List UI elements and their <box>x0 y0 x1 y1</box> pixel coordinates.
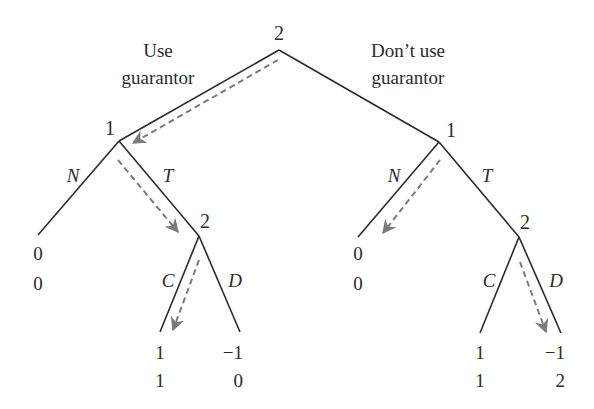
payoff-left-D-p2: 0 <box>234 370 244 391</box>
right-node1-player-label: 1 <box>446 119 456 141</box>
action-right-C: C <box>483 270 496 291</box>
payoff-left-C-p1: 1 <box>155 342 165 363</box>
left-node2-player-label: 2 <box>200 210 210 232</box>
action-left-T: T <box>163 165 175 186</box>
payoff-right-D-p2: 2 <box>556 370 566 391</box>
root-player-label: 2 <box>274 22 284 44</box>
action-left-C: C <box>162 270 175 291</box>
edge-left-T <box>119 141 199 236</box>
dont-use-guarantor-label-line2: guarantor <box>372 67 445 88</box>
payoff-left-C-p2: 1 <box>155 370 165 391</box>
action-right-D: D <box>548 270 563 291</box>
right-node2-player-label: 2 <box>520 211 530 233</box>
payoff-right-N-p2: 0 <box>353 273 363 294</box>
payoff-left-N-p2: 0 <box>33 273 43 294</box>
use-guarantor-label-line2: guarantor <box>122 67 195 88</box>
edge-use-guarantor <box>119 50 279 141</box>
action-left-D: D <box>227 270 242 291</box>
edge-right-N <box>358 142 439 237</box>
payoff-right-C-p1: 1 <box>475 342 485 363</box>
payoff-right-N-p1: 0 <box>353 243 363 264</box>
edge-left-N <box>38 141 119 235</box>
payoff-right-C-p2: 1 <box>475 370 485 391</box>
edge-right-T <box>439 142 519 237</box>
game-tree-diagram: 2 1 1 2 2 Use guarantor Don’t use guaran… <box>0 0 594 409</box>
payoff-left-D-p1: −1 <box>223 342 243 363</box>
dashed-arrow-right-D <box>520 262 546 332</box>
action-right-N: N <box>387 165 402 186</box>
edge-dont-use-guarantor <box>279 50 439 142</box>
equilibrium-paths <box>118 60 546 332</box>
payoff-right-D-p1: −1 <box>545 342 565 363</box>
action-left-N: N <box>66 165 81 186</box>
dashed-arrow-left-C <box>173 260 199 330</box>
action-right-T: T <box>482 165 494 186</box>
left-node1-player-label: 1 <box>105 117 115 139</box>
use-guarantor-label-line1: Use <box>143 40 173 61</box>
dont-use-guarantor-label-line1: Don’t use <box>371 40 445 61</box>
payoff-left-N-p1: 0 <box>33 243 43 264</box>
